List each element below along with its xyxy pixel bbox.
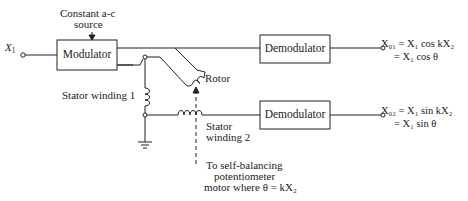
input-terminal — [21, 53, 25, 57]
modulator-label: Modulator — [57, 48, 117, 60]
note-line-3: motor where θ = kX₂ — [204, 181, 297, 193]
source-label-2: source — [74, 18, 103, 30]
stator1-label: Stator winding 1 — [62, 89, 135, 101]
output2-eq-1: X₀₂ = X₁ sin kX₂ — [381, 104, 452, 117]
demod2-label: Demodulator — [260, 108, 330, 120]
output1-eq-2: = X₁ cos θ — [394, 50, 438, 63]
output2-eq-2: = X₁ sin θ — [394, 117, 436, 130]
demod1-label: Demodulator — [260, 42, 330, 54]
rotor-label: Rotor — [205, 72, 230, 84]
input-label: X1 — [5, 41, 15, 57]
output1-eq-1: X₀₁ = X₁ cos kX₂ — [381, 37, 454, 50]
stator2-label-2: winding 2 — [206, 131, 250, 143]
